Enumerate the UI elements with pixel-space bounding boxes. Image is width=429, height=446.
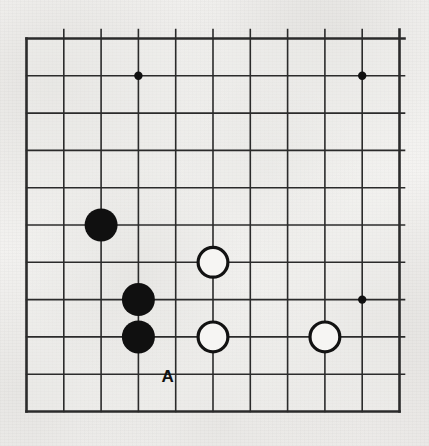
white-stone-f6[interactable] — [198, 247, 228, 277]
point-label-a: A — [162, 368, 174, 385]
go-diagram-page: A — [0, 0, 429, 446]
white-stone-f8[interactable] — [198, 322, 228, 352]
black-stone-d7[interactable] — [122, 283, 155, 316]
black-stone-d8[interactable] — [122, 320, 155, 353]
board-grid — [27, 30, 405, 412]
go-board[interactable] — [0, 0, 429, 446]
star-point-top-left — [134, 72, 142, 80]
white-stone-i8[interactable] — [310, 322, 340, 352]
star-point-top-right — [358, 72, 366, 80]
black-stone-c5[interactable] — [85, 209, 118, 242]
star-point-bottom-right — [358, 295, 366, 303]
